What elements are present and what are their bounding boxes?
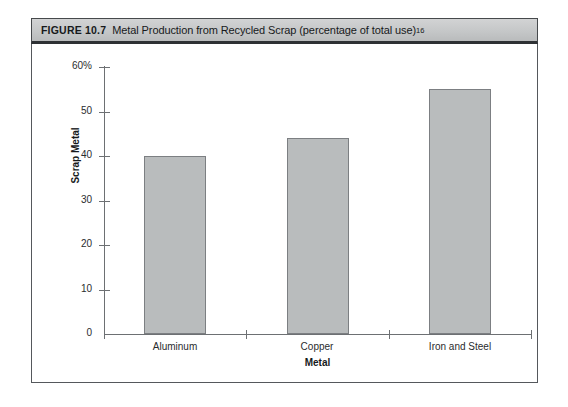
y-axis-tick bbox=[99, 67, 110, 68]
x-axis-category-label: Aluminum bbox=[104, 341, 246, 352]
x-axis-category-label: Copper bbox=[246, 341, 388, 352]
y-axis-tick bbox=[99, 112, 110, 113]
x-axis-tick bbox=[104, 330, 105, 339]
bar bbox=[429, 89, 491, 334]
x-axis-category-label: Iron and Steel bbox=[389, 341, 531, 352]
y-axis-tick-label: 0 bbox=[46, 327, 92, 338]
x-axis-tick bbox=[531, 330, 532, 339]
y-axis-tick bbox=[99, 290, 110, 291]
y-axis-tick-label: 20 bbox=[46, 238, 92, 249]
x-axis-line bbox=[104, 334, 531, 335]
x-axis-tick bbox=[246, 330, 247, 339]
y-axis-tick bbox=[99, 156, 110, 157]
y-axis-tick-label: 50 bbox=[46, 105, 92, 116]
y-axis-tick bbox=[99, 245, 110, 246]
bar-chart: 0102030405060% AluminumCopperIron and St… bbox=[0, 0, 568, 407]
bar bbox=[144, 156, 206, 334]
y-axis-tick-label: 10 bbox=[46, 283, 92, 294]
y-axis-title: Scrap Metal bbox=[70, 127, 81, 183]
x-axis-title: Metal bbox=[104, 357, 531, 368]
x-axis-tick bbox=[389, 330, 390, 339]
bar bbox=[287, 138, 349, 334]
y-axis-tick bbox=[99, 201, 110, 202]
y-axis-tick-label: 30 bbox=[46, 194, 92, 205]
y-axis-tick-label: 60% bbox=[46, 60, 92, 71]
